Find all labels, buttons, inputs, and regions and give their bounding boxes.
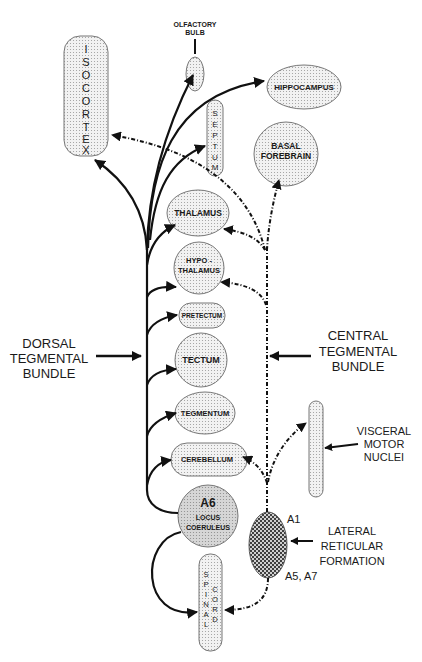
edge-lrf-to-spinal-cord [225,578,268,610]
cord-letter: R [212,605,218,614]
isocortex-letter: C [82,82,90,94]
isocortex-letter: R [82,108,90,120]
spinal-letter: A [203,610,208,619]
cord-letter: C [212,585,218,594]
edge-to-cerebellum [147,460,171,485]
isocortex-letter: T [83,121,90,133]
thalamus-label: THALAMUS [174,208,222,218]
spinal-letter: I [205,590,207,599]
lrf-label: RETICULAR [321,540,383,552]
node-lateral-reticular-formation: A1 A5, A7 LATERAL RETICULAR FORMATION [249,512,385,582]
node-locus-coeruleus: A6 LOCUS COERULEUS [178,485,238,547]
isocortex-letter: X [82,144,90,156]
node-thalamus: THALAMUS [167,190,229,236]
locus-coeruleus-label: LOCUS [196,514,221,521]
hypothalamus-label: THALAMUS [178,266,220,275]
olfactory-bulb-label: OLFACTORY [174,21,217,28]
edge-lc-to-spinal-cord [152,532,197,613]
basal-forebrain-label: FOREBRAIN [261,151,312,161]
isocortex-letter: S [82,56,89,68]
septum-letter: T [213,142,218,151]
central-label-line: CENTRAL [328,328,389,343]
edge-to-visceral-motor [268,423,306,482]
node-tectum: TECTUM [175,333,227,387]
tegmentum-label: TEGMENTUM [181,409,229,418]
visceral-pointer-arrow [325,444,358,448]
edge-to-tegmentum [147,413,176,436]
septum-letter: E [212,120,217,129]
pretectum-label: PRETECTUM [182,312,222,319]
edge-to-pretectum [147,315,177,335]
central-label-line: BUNDLE [332,359,385,374]
node-olfactory-bulb: OLFACTORY BULB [174,21,217,91]
central-label-line: TEGMENTAL [319,344,398,359]
node-isocortex: I S O C O R T E X [64,36,108,156]
node-visceral-motor-nuclei: VISCERAL MOTOR NUCLEI [309,401,411,497]
visceral-label: NUCLEI [364,451,404,463]
noradrenergic-pathways-diagram: I S O C O R T E X OLFACTORY BULB HIPPOCA… [0,0,422,662]
node-spinal-cord: S P I N A L C O R D [199,554,222,651]
cord-letter: D [212,615,218,624]
visceral-label: VISCERAL [357,425,411,437]
locus-coeruleus-a6-tag: A6 [200,496,216,510]
visceral-label: MOTOR [364,438,405,450]
a1-tag: A1 [287,513,300,525]
node-septum: S E P T U M [207,100,223,176]
cord-letter: O [212,595,218,604]
dorsal-label-line: DORSAL [22,336,75,351]
node-cerebellum: CEREBELLUM [171,443,247,476]
lrf-label: FORMATION [319,555,384,567]
spinal-letter: L [204,620,208,629]
tectum-label: TECTUM [182,355,220,365]
central-tegmental-bundle-label: CENTRAL TEGMENTAL BUNDLE [270,328,397,374]
septum-letter: U [212,153,218,162]
edge-to-isocortex [95,160,147,250]
dorsal-bundle-pathways [95,75,264,613]
isocortex-letter: O [82,95,91,107]
olfactory-bulb-label: BULB [185,29,204,36]
node-hypothalamus: HYPO - THALAMUS [174,242,224,294]
lrf-label: LATERAL [328,525,376,537]
septum-letter: S [212,109,217,118]
dorsal-tegmental-bundle-label: DORSAL TEGMENTAL BUNDLE [10,336,141,381]
spinal-letter: P [203,580,208,589]
a5-a7-tag: A5, A7 [285,570,317,582]
isocortex-letter: O [82,69,91,81]
locus-coeruleus-label: COERULEUS [186,524,230,531]
spinal-letter: S [203,570,208,579]
hypothalamus-label: HYPO - [186,256,212,265]
hippocampus-label: HIPPOCAMPUS [274,83,334,92]
node-tegmentum: TEGMENTUM [175,392,235,434]
cerebellum-label: CEREBELLUM [181,455,233,464]
dorsal-label-line: TEGMENTAL [10,351,89,366]
septum-letter: P [212,131,217,140]
node-basal-forebrain: BASAL FOREBRAIN [254,122,318,186]
edge-to-tectum [147,369,176,385]
node-hippocampus: HIPPOCAMPUS [267,65,341,109]
spinal-letter: N [203,600,208,609]
edge-to-hypothalamus-dashed [221,282,266,305]
septum-letter: M [212,163,219,172]
isocortex-letter: I [84,43,87,55]
dorsal-label-line: BUNDLE [23,366,76,381]
basal-forebrain-label: BASAL [271,141,300,151]
edge-to-basal-forebrain [267,180,279,250]
node-pretectum: PRETECTUM [179,303,225,328]
edge-to-hypothalamus [147,287,176,297]
